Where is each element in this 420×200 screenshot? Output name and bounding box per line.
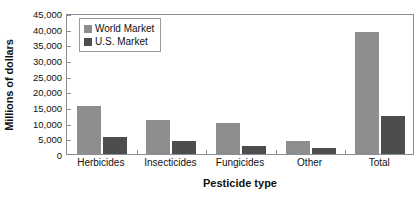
x-axis-tick-label: Fungicides — [216, 157, 264, 168]
y-axis-tick-mark — [67, 93, 71, 94]
y-axis-tick-label: 0 — [16, 150, 62, 161]
y-axis-tick-label: 30,000 — [16, 56, 62, 67]
x-axis-group-separator-tick — [137, 150, 138, 154]
y-axis-tick-mark — [67, 140, 71, 141]
bar-chart-figure: Millions of dollars 05,00010,00015,00020… — [0, 0, 420, 200]
y-axis-tick-mark — [67, 31, 71, 32]
y-axis-tick-label: 40,000 — [16, 24, 62, 35]
bar-total-us-market — [381, 116, 405, 154]
x-axis-tick-labels: HerbicidesInsecticidesFungicidesOtherTot… — [66, 157, 414, 173]
legend-item-us-market: U.S. Market — [84, 35, 154, 48]
legend-label-us-market: U.S. Market — [95, 36, 148, 47]
legend-label-world-market: World Market — [95, 23, 154, 34]
y-axis-tick-label: 10,000 — [16, 118, 62, 129]
bar-other-world-market — [286, 141, 310, 154]
y-axis-tick-mark — [67, 15, 71, 16]
x-axis-group-separator-tick — [345, 150, 346, 154]
bar-insecticides-us-market — [172, 141, 196, 154]
x-axis-group-separator-tick — [206, 150, 207, 154]
bar-insecticides-world-market — [146, 120, 170, 154]
y-axis-tick-mark — [67, 78, 71, 79]
legend-swatch-world-market — [84, 25, 92, 33]
y-axis-tick-label: 20,000 — [16, 87, 62, 98]
bar-herbicides-world-market — [77, 106, 101, 154]
bar-fungicides-us-market — [242, 146, 266, 154]
y-axis-tick-label: 45,000 — [16, 9, 62, 20]
x-axis-tick-label: Total — [369, 157, 390, 168]
y-axis-tick-mark — [67, 125, 71, 126]
y-axis-tick-label: 25,000 — [16, 71, 62, 82]
y-axis-tick-mark — [67, 46, 71, 47]
legend-swatch-us-market — [84, 38, 92, 46]
plot-area: World Market U.S. Market — [66, 14, 414, 155]
bar-total-world-market — [355, 32, 379, 154]
bar-fungicides-world-market — [216, 123, 240, 154]
y-axis-tick-mark — [67, 109, 71, 110]
y-axis-tick-mark — [67, 62, 71, 63]
y-axis-tick-label: 5,000 — [16, 134, 62, 145]
x-axis-group-separator-tick — [276, 150, 277, 154]
legend-item-world-market: World Market — [84, 22, 154, 35]
x-axis-tick-label: Insecticides — [144, 157, 196, 168]
bar-herbicides-us-market — [103, 137, 127, 154]
x-axis-tick-label: Herbicides — [77, 157, 124, 168]
bar-other-us-market — [312, 148, 336, 154]
y-axis-tick-label: 15,000 — [16, 103, 62, 114]
y-axis-tick-labels: 05,00010,00015,00020,00025,00030,00035,0… — [16, 8, 62, 162]
y-axis-tick-label: 35,000 — [16, 40, 62, 51]
x-axis-tick-label: Other — [297, 157, 322, 168]
x-axis-title: Pesticide type — [66, 177, 414, 189]
chart-legend: World Market U.S. Market — [79, 18, 161, 52]
y-axis-title-text: Millions of dollars — [3, 39, 15, 131]
